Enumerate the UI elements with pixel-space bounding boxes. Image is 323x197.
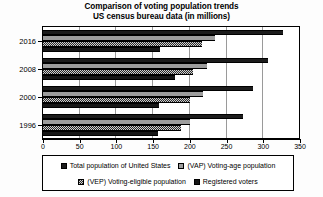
legend-item-registered-voters: Registered voters (194, 178, 258, 186)
chart-title-line-1: Comparison of voting population trends (0, 2, 323, 12)
x-axis-tick-label: 200 (178, 143, 202, 151)
y-axis-label-1996: 1996 (2, 121, 36, 130)
x-axis-tick-label: 50 (68, 143, 92, 151)
y-axis-label-2000: 2000 (2, 93, 36, 102)
legend-item-vap: (VAP) Voting-age population (178, 162, 275, 170)
light-gray-swatch-icon (178, 163, 184, 169)
bar-2000-series-3 (43, 103, 159, 109)
checkered-swatch-icon (78, 179, 84, 185)
chart-title: Comparison of voting population trends U… (0, 2, 323, 22)
solid-black-swatch-icon (194, 179, 200, 185)
legend-label-total-population: Total population of United States (70, 162, 171, 170)
chart-legend: Total population of United States (VAP) … (42, 155, 294, 191)
legend-item-vep: (VEP) Voting-eligible population (78, 178, 185, 186)
chart-title-line-2: US census bureau data (in millions) (0, 12, 323, 22)
y-axis-tick (38, 69, 43, 70)
chart-screenshot: Comparison of voting population trends U… (0, 0, 323, 197)
bar-1996-series-3 (43, 131, 158, 137)
legend-label-vap: (VAP) Voting-age population (187, 162, 275, 170)
y-axis-label-2016: 2016 (2, 37, 36, 46)
x-axis-tick-label: 300 (251, 143, 275, 151)
legend-row-2: (VEP) Voting-eligible population Registe… (43, 174, 293, 190)
x-axis-tick-label: 150 (141, 143, 165, 151)
legend-row-1: Total population of United States (VAP) … (43, 158, 293, 174)
solid-dark-swatch-icon (61, 163, 67, 169)
bars-layer (43, 27, 300, 139)
y-axis-tick (38, 41, 43, 42)
y-axis-tick (38, 125, 43, 126)
legend-item-total-population: Total population of United States (61, 162, 171, 170)
x-axis-tick-label: 100 (104, 143, 128, 151)
x-axis-line (42, 139, 301, 140)
y-axis-tick (38, 97, 43, 98)
x-axis-tick-label: 0 (31, 143, 55, 151)
x-axis-tick-label: 250 (215, 143, 239, 151)
y-axis-label-2008: 2008 (2, 65, 36, 74)
bar-2016-series-3 (43, 47, 160, 53)
legend-label-vep: (VEP) Voting-eligible population (87, 178, 185, 186)
x-axis-tick-label: 350 (288, 143, 312, 151)
legend-label-registered-voters: Registered voters (203, 178, 258, 186)
bar-2008-series-3 (43, 75, 175, 81)
